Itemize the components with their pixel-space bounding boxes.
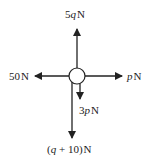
label-left: 50 N [9,71,29,82]
label-up: 5q N [65,9,85,20]
label-down-short: 3p N [79,105,99,116]
label-down-long: (q + 10) N [47,144,91,155]
body-circle [69,68,85,84]
label-right: p N [127,71,141,82]
